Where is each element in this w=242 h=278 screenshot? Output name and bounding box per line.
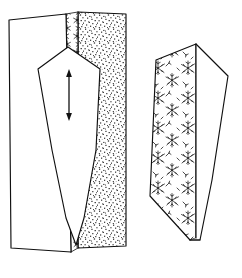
figure-canvas: Two-panel line drawing of wedge structur…: [0, 0, 242, 278]
figure-root: Two-panel line drawing of wedge structur…: [0, 0, 242, 278]
left-panel: [9, 8, 132, 258]
